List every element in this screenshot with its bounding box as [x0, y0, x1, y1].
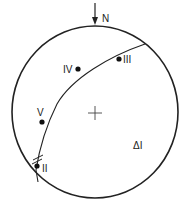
point-II — [34, 163, 39, 168]
center-cross-icon — [88, 106, 102, 120]
point-II-label: II — [42, 163, 48, 174]
point-V — [39, 119, 44, 124]
point-III — [116, 56, 121, 61]
point-V-label: V — [37, 107, 44, 118]
north-label: N — [102, 13, 109, 24]
delta-annotation: ΔI — [133, 140, 142, 151]
north-arrow-icon — [92, 3, 98, 25]
stereonet-diagram: N III IV V II ΔI — [0, 0, 186, 210]
point-IV-label: IV — [63, 64, 73, 75]
point-III-label: III — [123, 54, 131, 65]
point-IV — [75, 66, 80, 71]
